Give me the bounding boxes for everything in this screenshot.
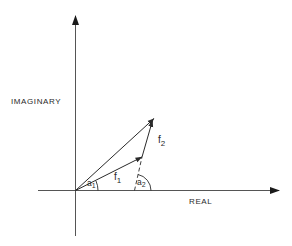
vector-f2 <box>142 121 153 158</box>
imaginary-axis-label: IMAGINARY <box>11 98 61 106</box>
angle-arc-a1 <box>96 181 98 191</box>
angle-a2-label: a2 <box>137 178 146 188</box>
angle-a2-subscript: 2 <box>142 181 146 188</box>
real-axis-label: REAL <box>189 198 212 206</box>
vector-f1 <box>76 157 143 191</box>
vector-f1-label: f1 <box>114 172 121 185</box>
vector-f2-subscript: 2 <box>161 139 165 148</box>
angle-a1-subscript: 1 <box>92 182 96 189</box>
angle-a1-label: a1 <box>87 179 96 189</box>
vector-f1-subscript: 1 <box>117 176 121 185</box>
phasor-diagram <box>0 0 292 246</box>
vector-f2-label: f2 <box>158 135 165 148</box>
